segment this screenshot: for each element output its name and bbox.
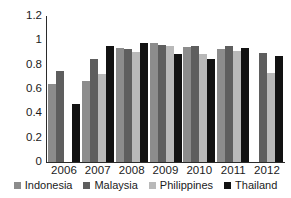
x-axis-tick-2006: 2006	[47, 165, 81, 177]
bar-group	[216, 16, 250, 162]
legend-item-indonesia[interactable]: Indonesia	[14, 180, 73, 191]
legend-item-thailand[interactable]: Thailand	[224, 180, 277, 191]
bar-thailand-2009	[174, 54, 182, 162]
bar-thailand-2007	[106, 46, 114, 162]
x-axis-tick-labels: 2006200720082009201020112012	[47, 165, 284, 177]
bar-groups	[47, 16, 284, 162]
bar-indonesia-2007	[82, 81, 90, 162]
bar-philippines-2009	[166, 46, 174, 162]
x-axis-tick-2011: 2011	[216, 165, 250, 177]
bar-malaysia-2009	[158, 45, 166, 162]
legend-swatch-philippines-icon	[149, 182, 156, 189]
legend-label: Malaysia	[94, 180, 137, 191]
x-axis-tick-2010: 2010	[182, 165, 216, 177]
bar-indonesia-2008	[116, 48, 124, 162]
bar-thailand-2011	[241, 48, 249, 162]
y-axis-tick-4: 0.4	[0, 107, 42, 119]
chart-legend: IndonesiaMalaysiaPhilippinesThailand	[0, 180, 291, 191]
legend-swatch-malaysia-icon	[83, 182, 90, 189]
bar-group	[81, 16, 115, 162]
y-axis-tick-6: 0	[0, 156, 42, 168]
bar-philippines-2012	[267, 73, 275, 162]
x-axis-tick-2007: 2007	[81, 165, 115, 177]
bar-group	[47, 16, 81, 162]
y-axis-tick-0: 1.2	[0, 10, 42, 22]
x-axis-tick-2012: 2012	[250, 165, 284, 177]
bar-chart: 1.210.80.60.40.20 2006200720082009201020…	[0, 0, 291, 198]
bar-malaysia-2006	[56, 71, 64, 162]
bar-malaysia-2008	[124, 49, 132, 162]
bar-thailand-2008	[140, 43, 148, 162]
x-axis-tick-2008: 2008	[115, 165, 149, 177]
bar-malaysia-2010	[191, 46, 199, 162]
y-axis-tick-1: 1	[0, 34, 42, 46]
legend-item-philippines[interactable]: Philippines	[149, 180, 213, 191]
bar-malaysia-2007	[90, 59, 98, 162]
y-axis-tick-2: 0.8	[0, 59, 42, 71]
bar-group	[250, 16, 284, 162]
bar-indonesia-2011	[217, 49, 225, 162]
bar-indonesia-2009	[150, 43, 158, 162]
x-axis-tick-2009: 2009	[149, 165, 183, 177]
bar-philippines-2011	[233, 51, 241, 162]
bar-thailand-2012	[275, 56, 283, 162]
x-axis-line	[46, 162, 285, 163]
legend-label: Indonesia	[25, 180, 73, 191]
bar-indonesia-2006	[48, 84, 56, 162]
legend-swatch-indonesia-icon	[14, 182, 21, 189]
bar-indonesia-2010	[183, 47, 191, 162]
bar-group	[182, 16, 216, 162]
legend-swatch-thailand-icon	[224, 182, 231, 189]
y-axis-tick-5: 0.2	[0, 132, 42, 144]
bar-thailand-2006	[72, 104, 80, 162]
bar-philippines-2007	[98, 74, 106, 162]
bar-philippines-2010	[199, 54, 207, 162]
y-axis-tick-3: 0.6	[0, 83, 42, 95]
legend-label: Thailand	[235, 180, 277, 191]
bar-thailand-2010	[207, 59, 215, 162]
legend-item-malaysia[interactable]: Malaysia	[83, 180, 137, 191]
bar-malaysia-2012	[259, 53, 267, 163]
legend-label: Philippines	[160, 180, 213, 191]
bar-group	[115, 16, 149, 162]
bar-malaysia-2011	[225, 46, 233, 162]
bar-philippines-2008	[132, 52, 140, 162]
bar-group	[149, 16, 183, 162]
